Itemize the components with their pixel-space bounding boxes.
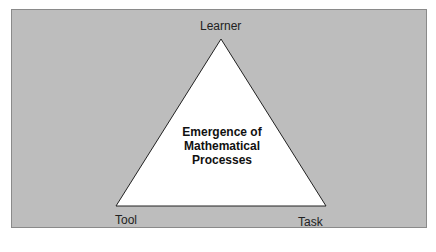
- vertex-label-task: Task: [298, 215, 323, 229]
- center-line-2: Mathematical: [160, 139, 284, 153]
- center-line-3: Processes: [160, 153, 284, 167]
- triangle-shape: [116, 39, 326, 206]
- vertex-label-learner: Learner: [200, 19, 241, 33]
- center-concept-label: Emergence of Mathematical Processes: [160, 125, 284, 167]
- center-line-1: Emergence of: [160, 125, 284, 139]
- vertex-label-tool: Tool: [115, 213, 137, 227]
